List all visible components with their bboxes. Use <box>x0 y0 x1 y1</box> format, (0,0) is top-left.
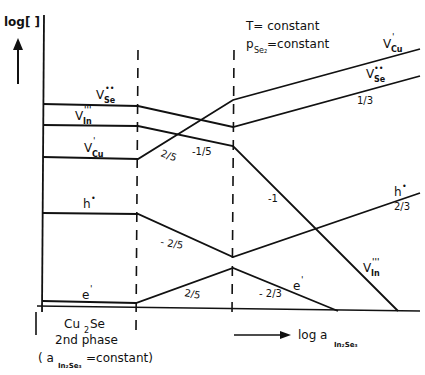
label-h-right: h • <box>394 182 407 199</box>
svg-text:Se: Se <box>374 75 386 84</box>
svg-text:•: • <box>402 182 407 191</box>
svg-text:''': ''' <box>84 106 91 115</box>
svg-text:e: e <box>82 288 89 302</box>
up-arrow-icon <box>13 38 23 84</box>
svg-text:Se₂: Se₂ <box>254 46 267 55</box>
svg-text:••: •• <box>105 84 114 93</box>
svg-text:e: e <box>293 279 300 293</box>
x-axis-label: log a In₂Se₃ <box>298 328 358 349</box>
label-e-right: e ' <box>293 275 303 293</box>
svg-text:( a: ( a <box>38 351 54 365</box>
svg-text:': ' <box>392 32 394 42</box>
svg-text:': ' <box>93 136 95 146</box>
label-v-in-left: V In ''' <box>75 106 92 126</box>
condition-temperature: T= constant <box>245 19 320 33</box>
svg-text:2nd phase: 2nd phase <box>55 333 118 347</box>
phase-boundary-right <box>232 50 234 315</box>
svg-text:In: In <box>83 117 92 126</box>
svg-text:''': ''' <box>372 258 379 267</box>
svg-text:': ' <box>90 284 92 294</box>
label-v-cu-right: V Cu ' <box>383 32 403 54</box>
slope-e-right: - 2/3 <box>259 288 282 299</box>
defect-concentration-diagram: log[ ] T= constant p Se₂ =constant V Se … <box>0 0 425 375</box>
svg-text:Cu: Cu <box>391 45 403 54</box>
slope-e-mid: 2/5 <box>184 287 202 301</box>
svg-text:p: p <box>246 37 254 51</box>
svg-text:In₂Se₃: In₂Se₃ <box>334 341 358 349</box>
x-axis <box>37 306 420 311</box>
right-arrow-icon <box>234 331 291 339</box>
line-h <box>43 193 420 257</box>
svg-text:=constant): =constant) <box>86 351 153 365</box>
slope-v-cu-mid: 2/5 <box>159 148 178 164</box>
svg-text:In₂Se₃: In₂Se₃ <box>58 362 82 370</box>
y-axis-label: log[ ] <box>4 15 40 29</box>
svg-text:Se: Se <box>90 317 105 331</box>
svg-text:h: h <box>394 185 402 199</box>
label-v-se-left: V Se •• <box>96 84 116 105</box>
svg-text:h: h <box>83 197 91 211</box>
svg-text:•: • <box>91 194 96 203</box>
slope-h-right: 2/3 <box>394 201 410 212</box>
slope-h-mid: - 2/5 <box>160 236 184 251</box>
svg-text:Cu: Cu <box>64 317 80 331</box>
svg-text:In: In <box>371 269 380 278</box>
slope-v-in-mid: -1/5 <box>192 146 212 157</box>
slope-v-in-right: -1 <box>268 193 278 204</box>
slope-v-se-right: 1/3 <box>357 95 373 106</box>
label-v-in-right: V In ''' <box>363 258 380 278</box>
phase-boundary-left <box>136 50 138 330</box>
label-h-left: h • <box>83 194 96 211</box>
svg-text:Cu: Cu <box>92 150 104 159</box>
svg-text:log a: log a <box>298 328 327 342</box>
label-v-cu-left: V Cu ' <box>84 136 104 159</box>
svg-text:••: •• <box>374 64 383 73</box>
label-e-left: e ' <box>82 284 92 302</box>
y-axis <box>42 15 44 312</box>
svg-text:': ' <box>301 275 303 285</box>
condition-pressure: p Se₂ =constant <box>246 37 330 55</box>
svg-text:Se: Se <box>104 96 116 105</box>
svg-text:=constant: =constant <box>267 37 330 51</box>
label-v-se-right: V Se •• <box>366 64 386 84</box>
